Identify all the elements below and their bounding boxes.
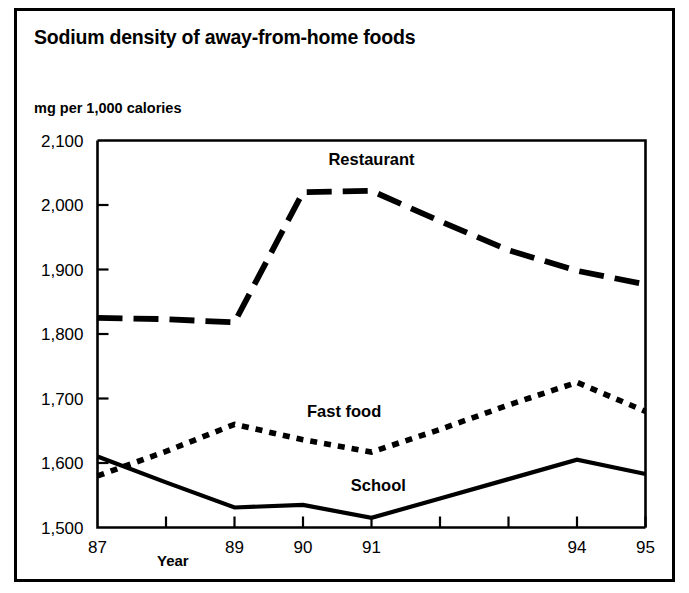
y-tick-label: 1,800 (41, 325, 84, 344)
x-tick-label: 91 (362, 538, 381, 557)
y-tick-label: 1,900 (41, 261, 84, 280)
x-tick-label: 89 (225, 538, 244, 557)
y-tick-label: 1,700 (41, 390, 84, 409)
series-line-restaurant (98, 191, 646, 323)
line-chart-plot: 1,5001,6001,7001,8001,9002,0002,100 8789… (0, 0, 689, 593)
x-axis-title-text: Year (157, 552, 189, 569)
x-tick-label: 90 (294, 538, 313, 557)
series-label-restaurant: Restaurant (328, 150, 415, 168)
x-tick-label: 94 (568, 538, 587, 557)
chart-axes (98, 141, 646, 528)
x-axis-title: Year (157, 552, 189, 569)
x-tick-label: 95 (636, 538, 655, 557)
series-label-school: School (351, 476, 406, 494)
x-tick-label: 87 (88, 538, 107, 557)
y-tick-label: 1,600 (41, 454, 84, 473)
y-tick-label: 2,100 (41, 132, 84, 151)
y-axis-tick-labels: 1,5001,6001,7001,8001,9002,0002,100 (41, 132, 84, 538)
series-label-fast-food: Fast food (307, 402, 381, 420)
chart-series-lines (98, 191, 646, 518)
y-tick-label: 1,500 (41, 519, 84, 538)
chart-figure: Sodium density of away-from-home foods m… (0, 0, 689, 593)
y-tick-label: 2,000 (41, 196, 84, 215)
